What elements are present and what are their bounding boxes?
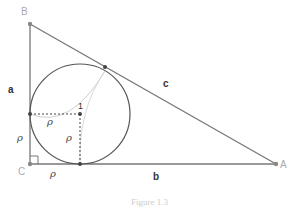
side-b-label: b [153, 171, 159, 182]
vertex-a-label: A [280, 159, 287, 170]
figure-caption: Figure 1.3 [131, 197, 168, 207]
tangent-point-b [78, 162, 82, 166]
vertex-c-point [28, 162, 32, 166]
faint-arc-curve [30, 71, 105, 117]
incenter-point [78, 112, 82, 116]
side-c-line [30, 24, 276, 164]
side-c-label: c [163, 78, 169, 89]
tangent-point-a [28, 112, 32, 116]
rho-label-bottom: ρ [49, 168, 56, 179]
vertex-b-point [28, 22, 32, 26]
vertex-a-point [274, 162, 278, 166]
rho-label-vertical: ρ [65, 132, 72, 143]
side-a-label: a [8, 84, 14, 95]
faint-arc-curve-2 [80, 71, 105, 164]
rho-label-horizontal: ρ [46, 116, 53, 127]
rho-label-left: ρ [16, 132, 23, 143]
incenter-label: 1 [78, 101, 83, 111]
vertex-b-label: B [21, 6, 28, 17]
incircle-diagram: B C A a b c ρ ρ ρ ρ 1 Figure 1.3 [0, 0, 301, 207]
vertex-c-label: C [18, 166, 25, 177]
tangent-point-c [103, 65, 107, 69]
